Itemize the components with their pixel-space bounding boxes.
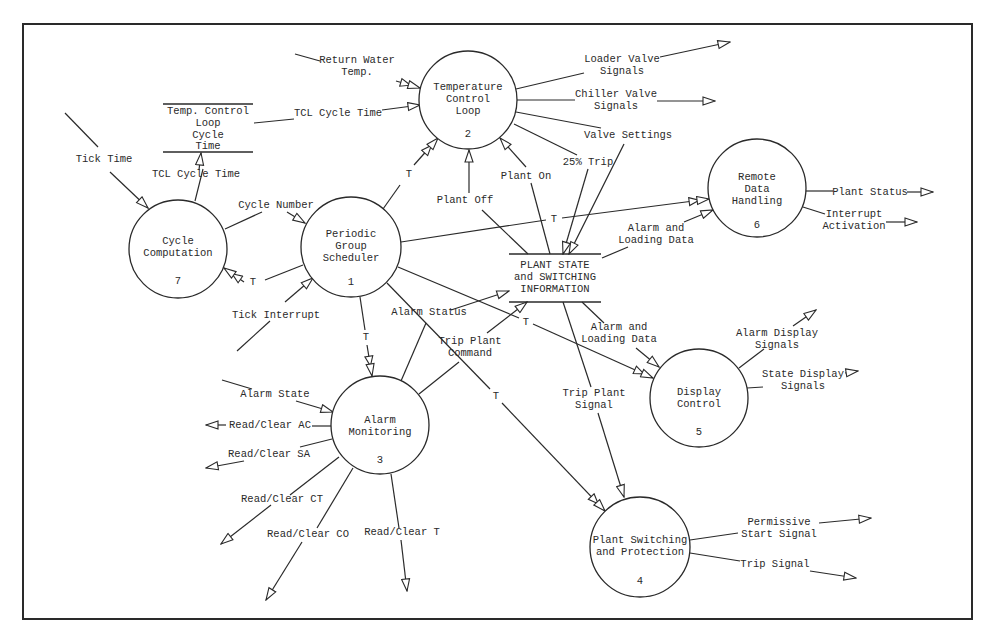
flow-line-t-to-tcl bbox=[383, 185, 400, 209]
flow-label-t-rdh: T bbox=[551, 213, 557, 225]
flow-line-tick-time bbox=[65, 113, 98, 147]
flow-label-alarm-loading-rdh: Alarm and bbox=[628, 222, 685, 234]
flow-arrow-alarm-loading-rdh bbox=[684, 210, 713, 222]
flow-label-alarm-display: Alarm Display bbox=[736, 327, 818, 339]
process-label-line: Group bbox=[335, 240, 367, 252]
flow-label-interrupt-activation: Activation bbox=[822, 220, 885, 232]
flow-label-interrupt-activation: Interrupt bbox=[826, 208, 883, 220]
flow-arrow-alarm-state bbox=[296, 401, 333, 412]
flow-label-alarm-loading-dc: Alarm and bbox=[591, 321, 648, 333]
flow-label-read-clear-sa: Read/Clear SA bbox=[228, 448, 311, 460]
flow-label-alarm-loading-dc: Loading Data bbox=[581, 333, 657, 345]
flow-label-trip-plant-signal: Trip Plant bbox=[562, 387, 625, 399]
flow-label-return-water-temp: Temp. bbox=[341, 66, 373, 78]
flow-label-trip-signal: Trip Signal bbox=[740, 558, 809, 570]
flow-label-permissive-start: Start Signal bbox=[741, 528, 817, 540]
flow-label-read-clear-ct: Read/Clear CT bbox=[241, 493, 323, 505]
flow-arrow-tick-time bbox=[110, 172, 148, 208]
flow-arrow-alarm-loading-dc bbox=[636, 348, 659, 367]
flow-label-tcl-cycle-time-cc: TCL Cycle Time bbox=[152, 168, 240, 180]
flow-label-plant-off: Plant Off bbox=[437, 194, 494, 206]
flow-line-25-trip bbox=[514, 124, 577, 155]
process-label-line: Handling bbox=[732, 195, 782, 207]
process-label-line: Temperature bbox=[433, 81, 502, 93]
process-remote-data-handling[interactable]: Remote Data Handling 6 bbox=[708, 139, 806, 237]
process-label-line: Plant Switching bbox=[593, 534, 688, 546]
flow-line-t-to-rdh bbox=[401, 220, 546, 242]
flow-arrow-alarm-display bbox=[793, 310, 816, 326]
flow-arrow-cycle-number bbox=[287, 212, 305, 223]
flow-arrow-read-clear-t bbox=[401, 540, 407, 591]
flow-label-t-psp: T bbox=[493, 390, 499, 402]
store-label-line: PLANT STATE bbox=[520, 259, 589, 271]
process-temperature-control-loop[interactable]: Temperature Control Loop 2 bbox=[419, 51, 517, 149]
flow-label-25-trip: 25% Trip bbox=[563, 156, 613, 168]
flow-label-plant-on: Plant On bbox=[501, 170, 551, 182]
flow-label-read-clear-co: Read/Clear CO bbox=[267, 528, 349, 540]
flow-label-t-am: T bbox=[363, 331, 369, 343]
flow-label-cycle-number: Cycle Number bbox=[238, 199, 314, 211]
flow-line-interrupt-activation bbox=[803, 207, 825, 214]
flow-arrow-state-display bbox=[845, 371, 858, 373]
process-number: 2 bbox=[465, 128, 471, 140]
flow-label-valve-settings: Valve Settings bbox=[584, 129, 672, 141]
flow-label-t-cc: T bbox=[250, 276, 256, 288]
flow-label-trip-plant-signal: Signal bbox=[575, 399, 613, 411]
process-label-line: Periodic bbox=[326, 228, 376, 240]
flow-label-return-water-temp: Return Water bbox=[319, 54, 395, 66]
flow-line-cycle-number bbox=[225, 212, 262, 229]
flow-arrow-t-to-tcl bbox=[414, 138, 438, 165]
flow-line-read-clear-ct bbox=[290, 457, 339, 495]
flow-line-plant-off bbox=[482, 210, 528, 254]
process-number: 6 bbox=[754, 219, 760, 231]
flow-arrow-read-clear-co bbox=[266, 542, 302, 600]
flow-arrow-read-clear-sa bbox=[206, 461, 244, 468]
process-label-line: Cycle bbox=[162, 235, 194, 247]
process-label-line: Scheduler bbox=[323, 252, 380, 264]
flow-label-alarm-loading-rdh: Loading Data bbox=[618, 234, 694, 246]
flow-arrow-read-clear-ct bbox=[221, 505, 271, 544]
flow-label-permissive-start: Permissive bbox=[747, 516, 810, 528]
flow-line-alarm-loading-rdh bbox=[602, 247, 628, 258]
flow-label-tcl-cycle-time: TCL Cycle Time bbox=[294, 107, 382, 119]
process-label-line: Remote bbox=[738, 171, 776, 183]
flow-label-chiller-valve: Signals bbox=[594, 100, 638, 112]
flow-line-valve-settings bbox=[516, 112, 601, 128]
flow-label-alarm-display: Signals bbox=[755, 339, 799, 351]
flow-label-t-dc: T bbox=[523, 316, 529, 328]
store-label-line: Temp. Control bbox=[167, 105, 249, 117]
process-label-line: Control bbox=[446, 93, 490, 105]
process-display-control[interactable]: Display Control 5 bbox=[650, 349, 748, 447]
flow-line-loader-valve bbox=[516, 73, 584, 89]
flow-label-trip-plant-command: Command bbox=[448, 347, 492, 359]
flow-label-plant-status: Plant Status bbox=[832, 186, 908, 198]
flow-line-t-to-am bbox=[360, 297, 365, 330]
flow-label-state-display: State Display bbox=[762, 368, 844, 380]
data-flow-diagram: Temp. Control Loop Cycle Time PLANT STAT… bbox=[0, 0, 989, 632]
flow-line-tcl-store-out bbox=[254, 119, 294, 123]
flow-line-permissive-start bbox=[690, 533, 738, 540]
store-label-line: and SWITCHING bbox=[514, 271, 596, 283]
process-alarm-monitoring[interactable]: Alarm Monitoring 3 bbox=[331, 376, 429, 474]
data-store-tcl-cycle-time[interactable]: Temp. Control Loop Cycle Time bbox=[163, 104, 253, 152]
data-store-plant-state[interactable]: PLANT STATE and SWITCHING INFORMATION bbox=[509, 254, 601, 302]
flow-arrow-t-to-cc bbox=[224, 268, 244, 282]
process-periodic-group-scheduler[interactable]: Periodic Group Scheduler 1 bbox=[301, 197, 401, 297]
flow-line-tick-interrupt bbox=[237, 321, 270, 351]
flow-arrow-trip-signal bbox=[810, 571, 856, 578]
process-plant-switching-protection[interactable]: Plant Switching and Protection 4 bbox=[590, 497, 690, 597]
process-number: 5 bbox=[696, 426, 702, 438]
store-label-line: Time bbox=[195, 140, 220, 152]
store-label-line: Loop bbox=[195, 117, 220, 129]
process-cycle-computation[interactable]: Cycle Computation 7 bbox=[129, 200, 227, 298]
flow-line-alarm-display bbox=[739, 349, 764, 368]
flow-arrow-t-to-rdh bbox=[562, 199, 709, 218]
process-label-line: Monitoring bbox=[348, 426, 411, 438]
flow-line-read-clear-sa bbox=[300, 439, 332, 447]
flow-label-trip-plant-command: Trip Plant bbox=[438, 335, 501, 347]
process-label-line: Computation bbox=[143, 247, 212, 259]
flow-label-alarm-status: Alarm Status bbox=[391, 306, 467, 318]
flow-label-chiller-valve: Chiller Valve bbox=[575, 88, 657, 100]
flow-line-return-water-temp bbox=[295, 54, 320, 61]
flow-label-read-clear-t: Read/Clear T bbox=[364, 526, 440, 538]
